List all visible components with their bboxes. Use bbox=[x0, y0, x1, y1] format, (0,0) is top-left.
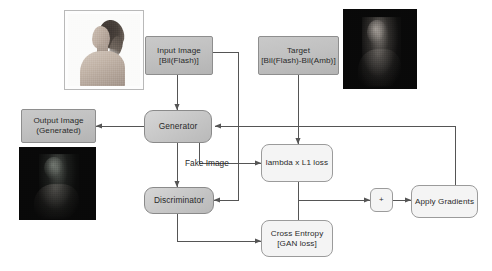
input-flash-photo bbox=[64, 10, 144, 90]
node-sum[interactable]: + bbox=[370, 188, 393, 212]
node-cross-entropy[interactable]: Cross Entropy [GAN loss] bbox=[261, 220, 333, 257]
target-residual-photo bbox=[343, 9, 417, 89]
edge-l1loss-to-sum bbox=[298, 182, 370, 200]
generated-output-photo bbox=[19, 147, 96, 220]
photo-grain bbox=[19, 147, 96, 220]
node-apply-gradients[interactable]: Apply Gradients bbox=[411, 185, 478, 218]
node-target[interactable]: Target [Bil(Flash)-Bil(Amb)] bbox=[258, 36, 339, 75]
node-generator[interactable]: Generator bbox=[144, 110, 212, 143]
node-l1-loss[interactable]: lambda x L1 loss bbox=[261, 144, 333, 182]
photo-grain bbox=[68, 14, 140, 86]
photo-grain bbox=[343, 9, 417, 89]
node-discriminator[interactable]: Discriminator bbox=[144, 187, 214, 214]
diagram-canvas: Input Image [Bil(Flash)] Target [Bil(Fla… bbox=[0, 0, 492, 271]
node-input-image[interactable]: Input Image [Bil(Flash)] bbox=[145, 36, 213, 75]
edge-discriminator-to-crossentropy bbox=[177, 214, 261, 241]
edge-applygradients-to-generator bbox=[215, 126, 455, 185]
node-output-image[interactable]: Output Image (Generated) bbox=[21, 109, 96, 143]
edge-label-fake-image: Fake Image bbox=[185, 158, 229, 168]
